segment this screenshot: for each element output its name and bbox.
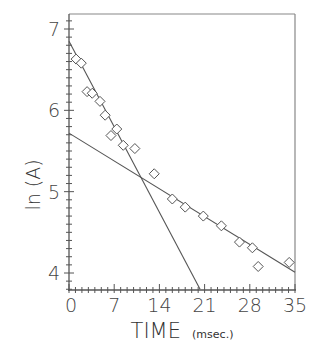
data-point-diamond bbox=[130, 144, 140, 154]
y-tick-label: 6 bbox=[48, 99, 60, 121]
x-tick-label: 7 bbox=[108, 294, 120, 316]
data-markers bbox=[71, 54, 294, 271]
x-tick-label: 35 bbox=[283, 294, 307, 316]
x-axis-title: TIME (msec.) bbox=[131, 319, 234, 343]
data-point-diamond bbox=[253, 261, 263, 271]
data-point-diamond bbox=[118, 140, 128, 150]
y-tick-label: 5 bbox=[48, 181, 60, 203]
fit-line bbox=[69, 133, 295, 272]
plot-frame bbox=[68, 14, 296, 291]
data-point-diamond bbox=[180, 202, 190, 212]
data-point-diamond bbox=[95, 96, 105, 106]
data-point-diamond bbox=[149, 169, 159, 179]
fit-line bbox=[69, 41, 200, 289]
y-tick-label: 7 bbox=[48, 18, 60, 40]
x-tick-label: 14 bbox=[147, 294, 171, 316]
x-axis-title-main: TIME bbox=[131, 319, 181, 343]
x-axis-title-unit: (msec.) bbox=[192, 328, 233, 341]
y-tick-labels: 4567 bbox=[48, 18, 60, 284]
x-tick-label: 0 bbox=[65, 294, 77, 316]
data-point-diamond bbox=[198, 211, 208, 221]
data-point-diamond bbox=[100, 110, 110, 120]
y-axis-title: ln (A) bbox=[22, 159, 44, 210]
chart: 4567 0714212835 ln (A) TIME (msec.) bbox=[0, 0, 311, 361]
x-axis-ticks bbox=[69, 284, 295, 293]
x-tick-label: 21 bbox=[193, 294, 217, 316]
x-tick-label: 28 bbox=[238, 294, 262, 316]
caption-fragment bbox=[4, 349, 304, 359]
data-point-diamond bbox=[234, 237, 244, 247]
x-tick-labels: 0714212835 bbox=[65, 294, 307, 316]
y-tick-label: 4 bbox=[48, 262, 60, 284]
fit-lines bbox=[69, 41, 295, 289]
data-point-diamond bbox=[167, 194, 177, 204]
